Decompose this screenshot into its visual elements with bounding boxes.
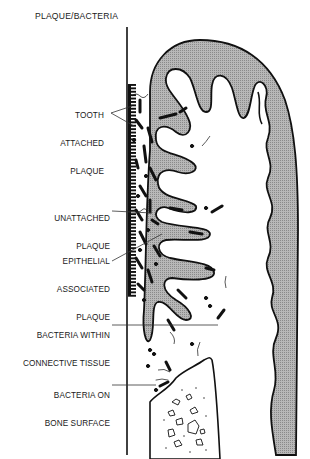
- periodontal-diagram: [0, 0, 310, 459]
- connective-tissue-papillae: [258, 92, 262, 124]
- tooth-attached-plaque-striations: [128, 84, 136, 297]
- alveolar-bone: [150, 358, 220, 459]
